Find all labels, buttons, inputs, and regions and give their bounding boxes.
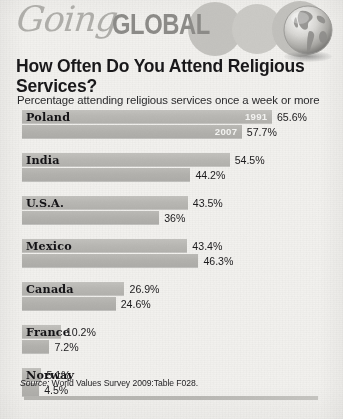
bar-2007 [22, 168, 190, 182]
bar-2007 [22, 254, 198, 268]
bar-row: 200757.7% [0, 125, 343, 140]
source-label: Source: [20, 378, 49, 388]
bar-2007 [22, 297, 116, 311]
country-group: Poland199165.6%200757.7% [0, 110, 343, 140]
value-label: 26.9% [129, 282, 159, 296]
value-label: 57.7% [247, 125, 277, 139]
value-label: 65.6% [277, 110, 307, 124]
bar-row: U.S.A.43.5% [0, 196, 343, 211]
bar-2007 [22, 211, 159, 225]
country-group: Canada26.9%24.6% [0, 282, 343, 312]
logo-going-text: Going [15, 0, 119, 39]
country-group: India54.5%44.2% [0, 153, 343, 183]
country-label: Poland [26, 110, 70, 124]
country-group: France10.2%7.2% [0, 325, 343, 355]
country-label: India [26, 153, 60, 167]
bar-row: Canada26.9% [0, 282, 343, 297]
chart-subtitle: Percentage attending religious services … [17, 94, 337, 106]
value-label: 10.2% [66, 325, 96, 339]
page-title: How Often Do You Attend Religious Servic… [16, 56, 316, 96]
value-label: 44.2% [195, 168, 225, 182]
value-label: 24.6% [121, 297, 151, 311]
value-label: 43.5% [193, 196, 223, 210]
bar-row: Poland199165.6% [0, 110, 343, 125]
bar-row: 36% [0, 211, 343, 226]
source-note: Source: World Values Survey 2009:Table F… [20, 378, 198, 388]
bar-chart: Poland199165.6%200757.7%India54.5%44.2%U… [0, 110, 343, 411]
country-label: Mexico [26, 239, 72, 253]
bar-2007 [22, 340, 49, 354]
year-label-1991: 1991 [245, 110, 268, 124]
value-label: 46.3% [203, 254, 233, 268]
value-label: 43.4% [192, 239, 222, 253]
logo-global-text: GLOBAL [112, 8, 210, 41]
bar-row: Mexico43.4% [0, 239, 343, 254]
year-label-2007: 2007 [215, 125, 238, 139]
bar-2007 [22, 125, 242, 139]
country-label: Canada [26, 282, 74, 296]
bar-row: 24.6% [0, 297, 343, 312]
country-group: U.S.A.43.5%36% [0, 196, 343, 226]
bar-row: 44.2% [0, 168, 343, 183]
source-text: World Values Survey 2009:Table F028. [49, 378, 198, 388]
value-label: 54.5% [235, 153, 265, 167]
bar-row: 46.3% [0, 254, 343, 269]
value-label: 36% [164, 211, 185, 225]
bar-row: France10.2% [0, 325, 343, 340]
bar-row: India54.5% [0, 153, 343, 168]
bar-row: 7.2% [0, 340, 343, 355]
bottom-divider [24, 396, 318, 400]
country-label: U.S.A. [26, 196, 64, 210]
country-label: France [26, 325, 70, 339]
value-label: 7.2% [54, 340, 78, 354]
country-group: Mexico43.4%46.3% [0, 239, 343, 269]
